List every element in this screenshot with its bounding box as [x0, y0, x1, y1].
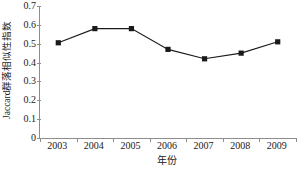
series-data-point [56, 40, 61, 45]
y-axis-tick-mark [37, 6, 41, 7]
x-axis-tick-label: 2004 [84, 141, 104, 151]
series-data-point [239, 51, 244, 56]
x-axis-tick-mark [296, 138, 297, 142]
y-axis-tick-label: 0.2 [24, 95, 37, 105]
series-data-point [129, 26, 134, 31]
y-axis-tick-label: 0.5 [24, 39, 37, 49]
series-data-point [92, 26, 97, 31]
data-series-svg [40, 6, 296, 138]
x-axis-tick-label: 2008 [230, 141, 250, 151]
x-axis-tick-label: 2006 [157, 141, 177, 151]
y-axis-tick-label: 0.4 [24, 58, 37, 68]
series-line [58, 29, 277, 59]
y-axis-tick-label: 0.6 [24, 20, 37, 30]
x-axis-tick-label: 2005 [120, 141, 140, 151]
line-chart: Jaccard群落相似性指数 00.10.20.30.40.50.60.7 20… [0, 0, 300, 174]
x-axis-tick-label-group: 2003200420052006200720082009 [39, 141, 295, 155]
y-axis-tick-mark [37, 25, 41, 26]
x-axis-tick-label: 2003 [47, 141, 67, 151]
series-data-point [165, 47, 170, 52]
y-axis-tick-label: 0 [31, 133, 36, 143]
y-axis-tick-label-group: 00.10.20.30.40.50.60.7 [14, 0, 38, 145]
y-axis-tick-mark [37, 44, 41, 45]
y-axis-tick-label: 0.7 [24, 1, 37, 11]
series-data-point [202, 56, 207, 61]
plot-area [39, 6, 296, 139]
series-data-point [275, 39, 280, 44]
x-axis-tick-label: 2007 [194, 141, 214, 151]
y-axis-tick-mark [37, 100, 41, 101]
y-axis-tick-label: 0.1 [24, 114, 37, 124]
y-axis-tick-mark [37, 81, 41, 82]
y-axis-tick-label: 0.3 [24, 76, 37, 86]
y-axis-title-label: Jaccard群落相似性指数 [3, 21, 13, 119]
y-axis-tick-mark [37, 119, 41, 120]
x-axis-title: 年份 [39, 156, 295, 166]
x-axis-tick-label: 2009 [267, 141, 287, 151]
y-axis-tick-mark [37, 63, 41, 64]
